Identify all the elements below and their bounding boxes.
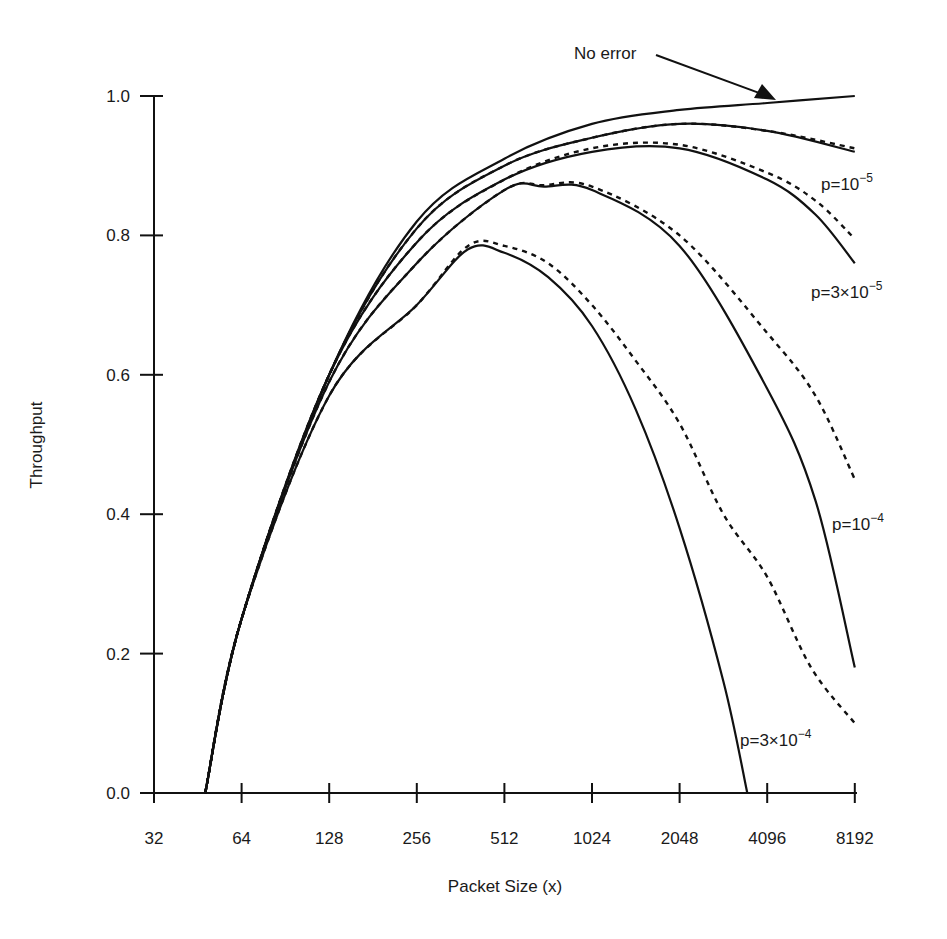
x-tick-label: 2048	[661, 829, 699, 848]
x-tick-label: 512	[490, 829, 518, 848]
x-tick-label: 32	[145, 829, 164, 848]
y-tick-label: 0.0	[106, 784, 130, 803]
series-line-p-3x10-4-dashed-	[205, 241, 855, 793]
x-axis-title: Packet Size (x)	[448, 877, 562, 896]
y-tick-label: 0.2	[106, 645, 130, 664]
label-p-1e-5: p=10−5	[821, 171, 873, 194]
y-axis-title: Throughput	[27, 401, 46, 488]
x-tick-label: 256	[403, 829, 431, 848]
x-tick-label: 8192	[836, 829, 874, 848]
series-line-p-3x10-4-solid-	[205, 245, 747, 793]
no-error-label: No error	[574, 44, 637, 63]
y-tick-label: 1.0	[106, 87, 130, 106]
throughput-chart: 0.00.20.40.60.81.0 326412825651210242048…	[0, 0, 947, 939]
annotation-no-error: No error	[574, 44, 776, 100]
series-line-p-3x10-5-dashed-	[205, 143, 855, 793]
x-tick-label: 128	[315, 829, 343, 848]
series-line-p-10-4-dashed-	[205, 182, 855, 793]
y-tick-label: 0.8	[106, 226, 130, 245]
y-tick-label: 0.4	[106, 505, 130, 524]
y-tick-label: 0.6	[106, 366, 130, 385]
label-p-1e-4: p=10−4	[832, 511, 884, 534]
series-line-p-10-5-dashed-	[205, 124, 855, 793]
arrow-line	[656, 55, 770, 97]
series-line-p-10-4-solid-	[205, 183, 855, 793]
axes	[140, 95, 857, 795]
label-p-3e-5: p=3×10−5	[811, 279, 883, 302]
label-p-3e-4: p=3×10−4	[740, 727, 812, 750]
series-line-p-3x10-5-solid-	[205, 146, 855, 793]
x-tick-label: 64	[232, 829, 251, 848]
x-tick-label: 1024	[573, 829, 611, 848]
series-line-p-10-5-solid-	[205, 124, 855, 793]
data-series	[205, 96, 855, 793]
x-tick-label: 4096	[748, 829, 786, 848]
